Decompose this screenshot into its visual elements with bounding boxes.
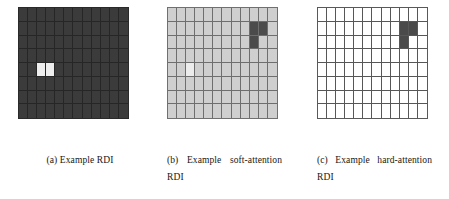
- grid-cell: [73, 36, 82, 50]
- grid-cell: [195, 36, 204, 50]
- grid-cell: [55, 91, 64, 105]
- grid-cell: [213, 49, 222, 63]
- grid-cell: [250, 77, 259, 91]
- grid-cell: [250, 63, 259, 77]
- grid-cell: [318, 22, 327, 36]
- grid-cell: [195, 63, 204, 77]
- grid-cell: [119, 77, 128, 91]
- grid-cell: [55, 49, 64, 63]
- grid-cell: [177, 104, 186, 118]
- grid-cell: [64, 49, 73, 63]
- grid-cell: [19, 77, 28, 91]
- grid-cell: [327, 8, 336, 22]
- grid-cell: [101, 8, 110, 22]
- grid-cell: [28, 77, 37, 91]
- grid-cell: [345, 104, 354, 118]
- grid-cell: [37, 22, 46, 36]
- grid-cell: [92, 49, 101, 63]
- grid-cell: [327, 104, 336, 118]
- grid-cell: [250, 104, 259, 118]
- grid-cell: [345, 22, 354, 36]
- caption-a: (a) Example RDI: [20, 152, 140, 169]
- grid-cell: [28, 36, 37, 50]
- grid-cell: [318, 77, 327, 91]
- grid-cell: [363, 36, 372, 50]
- grid-cell: [195, 91, 204, 105]
- grid-cell: [28, 49, 37, 63]
- panel-example-rdi: (a) Example RDI: [0, 0, 149, 199]
- grid-cell: [119, 22, 128, 36]
- grid-cell: [363, 104, 372, 118]
- grid-cell: [195, 8, 204, 22]
- grid-cell: [186, 63, 195, 77]
- grid-cell: [318, 104, 327, 118]
- grid-cell: [19, 8, 28, 22]
- grid-cell: [110, 63, 119, 77]
- grid-cell: [327, 22, 336, 36]
- grid-cell: [409, 77, 418, 91]
- grid-cell: [222, 22, 231, 36]
- grid-cell: [345, 36, 354, 50]
- grid-cell: [241, 22, 250, 36]
- grid-cell: [28, 104, 37, 118]
- grid-cell: [92, 36, 101, 50]
- grid-cell: [177, 91, 186, 105]
- grid-cell: [327, 49, 336, 63]
- grid-cell: [204, 77, 213, 91]
- grid-cell: [168, 104, 177, 118]
- grid-cell: [110, 104, 119, 118]
- grid-cell: [46, 49, 55, 63]
- grid-cell: [268, 36, 277, 50]
- grid-cell: [327, 36, 336, 50]
- grid-wrapper-b: [167, 7, 278, 119]
- grid-wrapper-c: [317, 7, 428, 119]
- grid-cell: [222, 104, 231, 118]
- grid-cell: [168, 91, 177, 105]
- grid-cell: [232, 91, 241, 105]
- grid-cell: [101, 77, 110, 91]
- grid-cell: [92, 8, 101, 22]
- grid-cell: [83, 104, 92, 118]
- grid-cell: [110, 22, 119, 36]
- grid-cell: [222, 36, 231, 50]
- grid-cell: [391, 104, 400, 118]
- grid-cell: [372, 8, 381, 22]
- grid-cell: [241, 8, 250, 22]
- grid-cell: [73, 22, 82, 36]
- grid-cell: [345, 77, 354, 91]
- grid-cell: [64, 36, 73, 50]
- grid-cell: [19, 104, 28, 118]
- grid-cell: [168, 77, 177, 91]
- grid-cell: [241, 77, 250, 91]
- grid-cell: [177, 49, 186, 63]
- grid-cell: [64, 63, 73, 77]
- grid-cell: [418, 22, 427, 36]
- grid-cell: [19, 63, 28, 77]
- grid-cell: [372, 22, 381, 36]
- grid-cell: [232, 104, 241, 118]
- grid-cell: [213, 104, 222, 118]
- grid-cell: [250, 49, 259, 63]
- grid-cell: [204, 8, 213, 22]
- caption-b-text: (b) Example soft-attention RDI: [167, 155, 284, 182]
- grid-cell: [354, 91, 363, 105]
- grid-cell: [55, 8, 64, 22]
- grid-cell: [92, 63, 101, 77]
- grid-cell: [213, 36, 222, 50]
- grid-cell: [372, 91, 381, 105]
- grid-cell: [259, 91, 268, 105]
- grid-cell: [83, 49, 92, 63]
- grid-cell: [55, 77, 64, 91]
- grid-cell: [73, 104, 82, 118]
- grid-cell: [55, 63, 64, 77]
- grid-cell: [168, 36, 177, 50]
- grid-cell: [327, 77, 336, 91]
- grid-cell: [83, 91, 92, 105]
- grid-cell: [37, 91, 46, 105]
- grid-cell: [418, 8, 427, 22]
- grid-cell: [372, 104, 381, 118]
- grid-cell: [418, 49, 427, 63]
- grid-cell: [318, 91, 327, 105]
- grid-cell: [177, 77, 186, 91]
- grid-cell: [213, 22, 222, 36]
